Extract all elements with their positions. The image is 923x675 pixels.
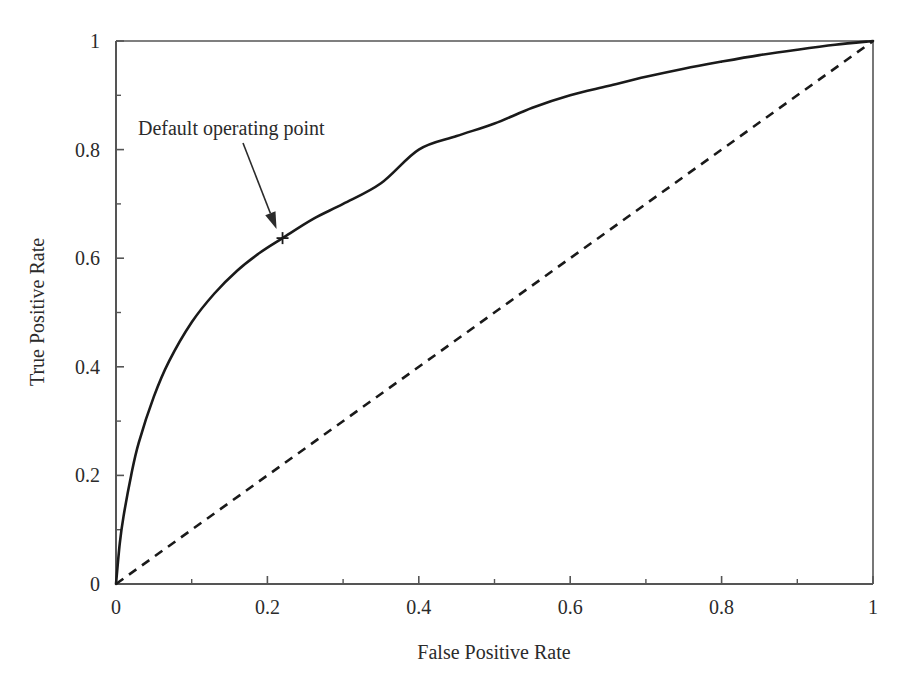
roc-chart-figure: 00.20.40.60.81 00.20.40.60.81 Default op…	[0, 0, 923, 675]
x-tick-label: 0.2	[255, 596, 280, 618]
y-tick-label: 0.2	[75, 464, 100, 486]
x-tick-label: 0	[111, 596, 121, 618]
x-tick-label: 0.8	[709, 596, 734, 618]
default-operating-point-label: Default operating point	[138, 117, 325, 140]
x-axis-title: False Positive Rate	[417, 641, 570, 663]
x-tick-labels: 00.20.40.60.81	[111, 596, 878, 618]
annotation-arrow-line	[243, 143, 270, 213]
y-tick-label: 0.8	[75, 139, 100, 161]
y-axis-title: True Positive Rate	[26, 238, 48, 386]
x-tick-label: 0.4	[406, 596, 431, 618]
y-tick-label: 0.6	[75, 247, 100, 269]
x-tick-label: 0.6	[558, 596, 583, 618]
y-tick-label: 0	[90, 573, 100, 595]
y-tick-label: 0.4	[75, 356, 100, 378]
y-tick-labels: 00.20.40.60.81	[75, 30, 100, 595]
x-tick-label: 1	[868, 596, 878, 618]
annotation-arrow-head	[265, 211, 276, 229]
y-tick-label: 1	[90, 30, 100, 52]
annotation-arrow	[243, 143, 277, 229]
roc-plot-svg: 00.20.40.60.81 00.20.40.60.81 Default op…	[0, 0, 923, 675]
